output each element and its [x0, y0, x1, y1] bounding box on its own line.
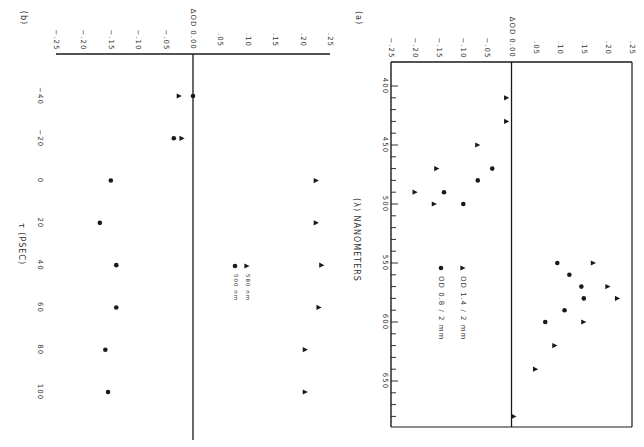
x-tick-label: −20	[36, 129, 44, 147]
od-tick-label: −.20	[79, 30, 87, 51]
data-point-triangle	[504, 119, 509, 124]
data-point-circle	[114, 263, 119, 268]
data-point-triangle	[475, 142, 480, 147]
legend-item: 580 nm	[244, 263, 250, 301]
legend-item: OD 1.4 / 2 mm	[459, 265, 467, 340]
data-point-triangle	[533, 367, 538, 372]
od-tick-label: .25	[628, 41, 636, 55]
od-tick-label: .20	[299, 33, 307, 47]
od-tick-label: −.05	[162, 30, 170, 51]
od-tick-label: −.25	[52, 30, 60, 51]
data-point-triangle	[319, 263, 324, 268]
data-point-triangle	[316, 305, 321, 310]
data-point-circle	[582, 296, 587, 301]
legend-label: OD 0.8 / 2 mm	[437, 276, 445, 340]
x-tick-label: 0	[36, 178, 44, 183]
data-point-circle	[191, 94, 196, 99]
data-point-triangle	[177, 93, 182, 98]
figure: (a)−.25−.20−.15−.10−.050.00.05.10.15.20.…	[0, 0, 644, 447]
data-point-circle	[98, 221, 103, 226]
data-point-triangle	[581, 319, 586, 324]
x-tick-label: 80	[36, 344, 44, 355]
data-point-circle	[442, 190, 447, 195]
data-point-triangle	[605, 284, 610, 289]
data-point-circle	[103, 347, 108, 352]
data-point-circle	[567, 273, 572, 278]
data-point-triangle	[615, 296, 620, 301]
data-point-circle	[114, 305, 119, 310]
od-tick-label: −.20	[411, 38, 419, 59]
legend-marker-icon	[439, 266, 444, 271]
x-tick-label: 60	[36, 302, 44, 313]
legend-label: 580 nm	[244, 274, 250, 301]
x-tick-label: −40	[36, 87, 44, 105]
x-axis-title: τ (PSEC)	[17, 223, 26, 265]
legend-label: OD 1.4 / 2 mm	[459, 276, 467, 340]
x-tick-label: 450	[381, 137, 389, 153]
x-tick-label: 550	[381, 255, 389, 271]
od-tick-label: .05	[532, 41, 540, 55]
panel-b: (b)−.25−.20−.15−.10−.050.00.05.10.15.20.…	[17, 9, 335, 440]
legend-marker-icon	[233, 264, 238, 269]
data-point-circle	[562, 308, 567, 313]
od-axis-title: ΔOD	[508, 17, 516, 36]
data-point-triangle	[504, 95, 509, 100]
od-tick-label: 0.00	[508, 38, 516, 58]
od-tick-label: .15	[580, 41, 588, 55]
legend-item: OD 0.8 / 2 mm	[437, 266, 445, 341]
od-tick-label: .10	[556, 41, 564, 55]
data-point-circle	[543, 320, 548, 325]
legend-marker-icon	[460, 265, 465, 270]
data-point-triangle	[314, 220, 319, 225]
data-point-circle	[106, 390, 111, 395]
x-tick-label: 40	[36, 260, 44, 271]
data-point-circle	[109, 178, 114, 183]
data-point-triangle	[303, 389, 308, 394]
data-point-circle	[461, 202, 466, 207]
x-tick-label: 500	[381, 196, 389, 212]
od-tick-label: −.15	[435, 38, 443, 59]
data-point-circle	[579, 284, 584, 289]
legend-marker-icon	[244, 263, 249, 268]
od-tick-label: −.15	[107, 30, 115, 51]
x-tick-label: 650	[381, 373, 389, 389]
data-point-triangle	[303, 347, 308, 352]
od-tick-label: 0.00	[189, 30, 197, 50]
od-tick-label: −.10	[134, 30, 142, 51]
x-tick-label: 600	[381, 314, 389, 330]
data-point-circle	[490, 166, 495, 171]
data-point-circle	[475, 178, 480, 183]
od-tick-label: .05	[216, 33, 224, 47]
od-tick-label: .15	[271, 33, 279, 47]
panel-label: (b)	[19, 11, 28, 25]
data-point-triangle	[552, 343, 557, 348]
od-tick-label: −.25	[387, 38, 395, 59]
data-point-triangle	[413, 190, 418, 195]
x-axis-title: (λ) NANOMETERS	[352, 198, 361, 282]
data-point-triangle	[591, 260, 596, 265]
data-point-triangle	[434, 166, 439, 171]
od-tick-label: .20	[604, 41, 612, 55]
data-point-triangle	[314, 178, 319, 183]
x-tick-label: 100	[36, 384, 44, 400]
data-point-triangle	[511, 414, 516, 419]
x-tick-label: 20	[36, 217, 44, 228]
od-axis-title: ΔOD	[189, 9, 197, 28]
od-tick-label: −.05	[483, 38, 491, 59]
panel-a: (a)−.25−.20−.15−.10−.050.00.05.10.15.20.…	[352, 11, 637, 427]
data-point-circle	[555, 261, 560, 266]
od-tick-label: .25	[326, 33, 334, 47]
panel-label: (a)	[354, 11, 363, 25]
legend-item: 500 nm	[232, 264, 238, 301]
x-tick-label: 400	[381, 78, 389, 94]
legend-label: 500 nm	[232, 274, 238, 301]
data-point-triangle	[432, 201, 437, 206]
data-point-circle	[172, 136, 177, 141]
data-point-triangle	[179, 136, 184, 141]
od-tick-label: −.10	[459, 38, 467, 59]
od-tick-label: .10	[244, 33, 252, 47]
